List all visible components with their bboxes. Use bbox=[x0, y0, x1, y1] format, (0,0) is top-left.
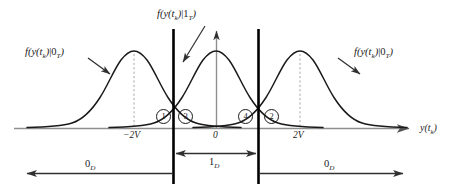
region-marker-4: 4 bbox=[238, 109, 253, 124]
region-marker-3: 3 bbox=[178, 109, 193, 124]
label-pdf-left-close2: ) bbox=[61, 46, 65, 57]
annotation-arrows bbox=[88, 26, 360, 74]
tick-label-2v: 2V bbox=[293, 131, 304, 141]
figure-canvas bbox=[0, 0, 453, 192]
label-x-axis-close: ) bbox=[434, 122, 437, 133]
tick-label-minus-2v: −2V bbox=[123, 131, 140, 141]
figure-container: f(y(tk)|0T) f(y(tk)|1T) f(y(tk)|0T) y(tk… bbox=[0, 0, 453, 192]
label-region-0d-left-sub: D bbox=[90, 164, 95, 172]
label-region-1d-center: 1D bbox=[209, 157, 219, 170]
region-marker-2: 2 bbox=[264, 109, 279, 124]
label-region-0d-right-sub: D bbox=[329, 164, 334, 172]
label-pdf-center-close2: ) bbox=[193, 8, 197, 19]
leader-arrow-pdf-left bbox=[88, 58, 110, 74]
label-region-1d-center-sub: D bbox=[214, 162, 219, 170]
label-pdf-center: f(y(tk)|1T) bbox=[157, 9, 196, 22]
leader-arrow-pdf-right bbox=[338, 58, 360, 74]
label-pdf-right: f(y(tk)|0T) bbox=[354, 47, 393, 60]
label-region-0d-left: 0D bbox=[85, 159, 95, 172]
leader-arrow-pdf-center bbox=[183, 26, 205, 62]
label-pdf-left: f(y(tk)|0T) bbox=[25, 47, 64, 60]
label-pdf-right-close2: ) bbox=[390, 46, 394, 57]
label-x-axis: y(tk) bbox=[420, 123, 437, 136]
region-marker-1: 1 bbox=[156, 109, 171, 124]
label-region-0d-right: 0D bbox=[324, 159, 334, 172]
tick-label-zero: 0 bbox=[213, 131, 218, 141]
